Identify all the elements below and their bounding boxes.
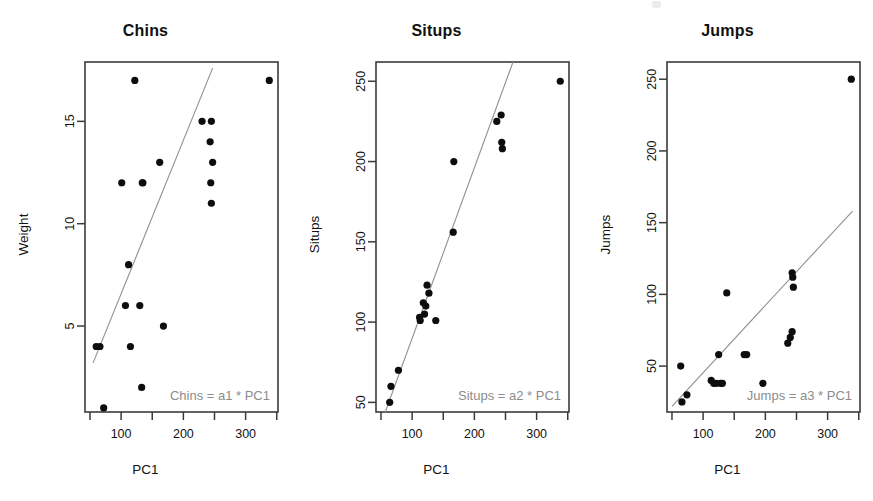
data-point xyxy=(118,179,125,186)
data-point xyxy=(207,179,214,186)
y-tick-label: 100 xyxy=(645,284,659,305)
data-point xyxy=(784,340,791,347)
y-tick-label: 250 xyxy=(645,69,659,90)
y-tick-label: 10 xyxy=(63,217,77,231)
data-point xyxy=(493,118,500,125)
y-tick-label: 200 xyxy=(645,140,659,161)
regression-fit-line xyxy=(93,68,213,363)
data-point xyxy=(266,77,273,84)
data-point xyxy=(417,317,424,324)
data-point xyxy=(450,229,457,236)
data-point xyxy=(395,367,402,374)
data-point xyxy=(198,118,205,125)
y-tick-label: 100 xyxy=(354,312,368,333)
data-point xyxy=(127,343,134,350)
data-point xyxy=(208,118,215,125)
data-point xyxy=(387,383,394,390)
plot-area: 10020030050100150200250Situps = a2 * PC1 xyxy=(291,0,582,501)
panel-annotation: Jumps = a3 * PC1 xyxy=(747,388,852,403)
plot-frame xyxy=(667,62,860,412)
data-point xyxy=(425,290,432,297)
data-point xyxy=(848,76,855,83)
data-point xyxy=(156,159,163,166)
y-tick-label: 200 xyxy=(354,151,368,172)
data-point xyxy=(723,289,730,296)
data-point xyxy=(790,284,797,291)
data-point xyxy=(432,317,439,324)
regression-fit-line xyxy=(672,211,853,406)
data-point xyxy=(209,159,216,166)
data-point xyxy=(122,302,129,309)
figure-scatter-panels: ChinsPC1Weight10020030051015Chins = a1 *… xyxy=(0,0,873,501)
plot-frame xyxy=(85,62,278,412)
data-point xyxy=(93,343,100,350)
data-point xyxy=(677,362,684,369)
x-tick-label: 100 xyxy=(111,427,132,441)
x-tick-label: 100 xyxy=(402,427,423,441)
data-point xyxy=(498,139,505,146)
y-tick-label: 250 xyxy=(354,71,368,92)
data-point xyxy=(759,380,766,387)
data-point xyxy=(423,282,430,289)
data-point xyxy=(207,138,214,145)
data-point xyxy=(422,302,429,309)
data-point xyxy=(678,398,685,405)
data-point xyxy=(125,261,132,268)
x-tick-label: 200 xyxy=(173,427,194,441)
x-tick-label: 300 xyxy=(526,427,547,441)
data-point xyxy=(743,351,750,358)
data-point xyxy=(131,77,138,84)
panel-annotation: Situps = a2 * PC1 xyxy=(458,388,561,403)
x-tick-label: 100 xyxy=(693,427,714,441)
y-tick-label: 50 xyxy=(354,395,368,409)
data-point xyxy=(789,274,796,281)
panel-chins: ChinsPC1Weight10020030051015Chins = a1 *… xyxy=(0,0,291,501)
data-point xyxy=(557,78,564,85)
x-tick-label: 200 xyxy=(755,427,776,441)
data-point xyxy=(498,111,505,118)
plot-area: 10020030050100150200250Jumps = a3 * PC1 xyxy=(582,0,873,501)
y-tick-label: 150 xyxy=(645,212,659,233)
data-point xyxy=(160,322,167,329)
panel-annotation: Chins = a1 * PC1 xyxy=(170,388,270,403)
data-point xyxy=(138,384,145,391)
plot-area: 10020030051015Chins = a1 * PC1 xyxy=(0,0,291,501)
data-point xyxy=(715,351,722,358)
data-point xyxy=(139,179,146,186)
data-point xyxy=(683,391,690,398)
y-tick-label: 5 xyxy=(63,323,77,330)
data-point xyxy=(136,302,143,309)
data-point xyxy=(100,404,107,411)
data-point xyxy=(499,145,506,152)
data-point xyxy=(208,200,215,207)
data-point xyxy=(450,158,457,165)
panel-situps: SitupsPC1Situps10020030050100150200250Si… xyxy=(291,0,582,501)
regression-fit-line xyxy=(384,62,513,415)
data-point xyxy=(719,380,726,387)
panel-jumps: JumpsPC1Jumps10020030050100150200250Jump… xyxy=(582,0,873,501)
y-tick-label: 15 xyxy=(63,114,77,128)
data-point xyxy=(386,399,393,406)
x-tick-label: 300 xyxy=(235,427,256,441)
y-tick-label: 50 xyxy=(645,359,659,373)
y-tick-label: 150 xyxy=(354,231,368,252)
x-tick-label: 200 xyxy=(464,427,485,441)
x-tick-label: 300 xyxy=(817,427,838,441)
